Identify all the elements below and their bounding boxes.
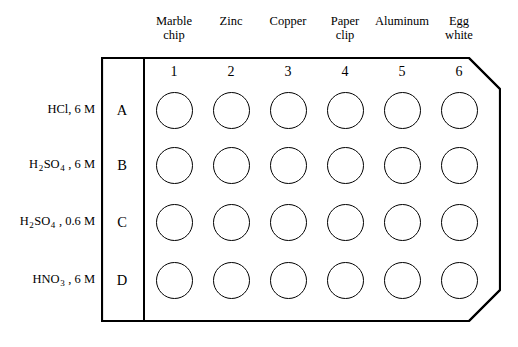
column-number-4: 4 [325, 64, 365, 79]
well-D3[interactable] [270, 262, 307, 299]
well-B4[interactable] [327, 147, 364, 184]
well-A3[interactable] [270, 92, 307, 129]
well-B5[interactable] [384, 147, 421, 184]
well-A1[interactable] [156, 92, 193, 129]
well-B2[interactable] [213, 147, 250, 184]
spot-plate-figure: Marble chipZincCopperPaper clipAluminumE… [0, 0, 518, 347]
well-A4[interactable] [327, 92, 364, 129]
row-label-A: HCl, 6 M [0, 102, 95, 117]
well-D5[interactable] [384, 262, 421, 299]
column-number-2: 2 [211, 64, 251, 79]
well-B1[interactable] [156, 147, 193, 184]
column-number-1: 1 [154, 64, 194, 79]
column-number-3: 3 [268, 64, 308, 79]
well-C4[interactable] [327, 204, 364, 241]
well-C5[interactable] [384, 204, 421, 241]
row-label-C: H2SO4 , 0.6 M [0, 214, 95, 233]
row-letter-C: C [107, 214, 137, 230]
well-D2[interactable] [213, 262, 250, 299]
well-C6[interactable] [441, 204, 478, 241]
well-C1[interactable] [156, 204, 193, 241]
row-letter-divider [143, 57, 145, 322]
well-D6[interactable] [441, 262, 478, 299]
well-D4[interactable] [327, 262, 364, 299]
well-D1[interactable] [156, 262, 193, 299]
well-A5[interactable] [384, 92, 421, 129]
row-label-D: HNO3 , 6 M [0, 272, 95, 291]
well-A6[interactable] [441, 92, 478, 129]
column-header-6: Egg white [414, 14, 504, 42]
row-letter-D: D [107, 272, 137, 288]
row-letter-B: B [107, 157, 137, 173]
column-number-5: 5 [382, 64, 422, 79]
row-label-B: H2SO4 , 6 M [0, 157, 95, 176]
well-B3[interactable] [270, 147, 307, 184]
column-number-6: 6 [439, 64, 479, 79]
well-plate: 123456 ABCD [101, 57, 501, 322]
well-A2[interactable] [213, 92, 250, 129]
well-C2[interactable] [213, 204, 250, 241]
row-letter-A: A [107, 102, 137, 118]
well-C3[interactable] [270, 204, 307, 241]
well-B6[interactable] [441, 147, 478, 184]
